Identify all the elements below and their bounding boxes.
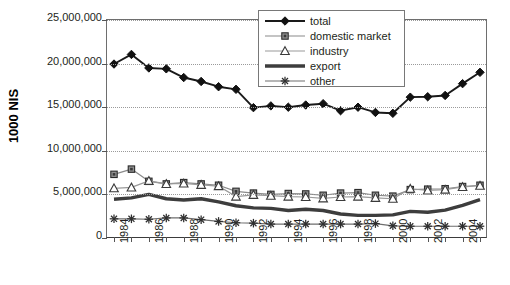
gridline (107, 107, 486, 108)
x-axis-tick-label: 1994 (292, 203, 304, 243)
legend-swatch-asterisk-icon (263, 75, 307, 87)
y-axis-tick-label: 15,000,000 (28, 98, 102, 110)
x-axis-tick-label: 1984 (118, 203, 130, 243)
data-point-asterisk (354, 220, 363, 229)
data-point-asterisk (110, 215, 119, 224)
x-axis-tick-label: 1990 (223, 203, 235, 243)
legend-swatch-none-icon (263, 60, 307, 72)
x-axis-tick-mark (445, 237, 446, 242)
x-axis-tick-mark (184, 237, 185, 242)
y-axis-tick-label: 0 (28, 229, 102, 241)
gridline (107, 151, 486, 152)
data-point-asterisk (214, 217, 223, 226)
data-point-asterisk (179, 214, 188, 223)
data-point-diamond (281, 17, 289, 25)
x-axis-tick-mark (149, 237, 150, 242)
data-point-square (111, 171, 117, 177)
x-axis-tick-mark (219, 237, 220, 242)
x-axis-tick-label: 2002 (432, 203, 444, 243)
x-axis-tick-mark (428, 237, 429, 242)
legend-label: industry (310, 45, 349, 57)
x-axis-tick-label: 2004 (467, 203, 479, 243)
x-axis-tick-mark (410, 237, 411, 242)
legend-item-industry[interactable]: industry (263, 44, 400, 58)
x-axis-tick-mark (463, 237, 464, 242)
data-point-diamond (214, 83, 222, 91)
y-axis-tick-label: 10,000,000 (28, 142, 102, 154)
data-point-diamond (162, 65, 170, 73)
x-axis-tick-mark (114, 237, 115, 242)
x-axis-tick-label: 1996 (327, 203, 339, 243)
data-point-asterisk (145, 215, 154, 224)
x-axis-tick-mark (288, 237, 289, 242)
x-axis-tick-mark (375, 237, 376, 242)
data-point-diamond (267, 102, 275, 110)
legend-item-domestic-market[interactable]: domestic market (263, 29, 400, 43)
legend-label: other (310, 75, 335, 87)
data-point-square (128, 166, 134, 172)
legend-label: domestic market (310, 30, 391, 42)
y-axis-tick-mark (102, 194, 107, 195)
legend-swatch-triangle-icon (263, 45, 307, 57)
data-point-diamond (424, 93, 432, 101)
legend-swatch-square-icon (263, 30, 307, 42)
x-axis-tick-label: 1992 (257, 203, 269, 243)
x-axis-tick-label: 1986 (153, 203, 165, 243)
y-axis-tick-label: 20,000,000 (28, 55, 102, 67)
y-axis-tick-mark (102, 238, 107, 239)
data-point-asterisk (423, 222, 432, 231)
legend-label: export (310, 60, 341, 72)
x-axis-tick-mark (131, 237, 132, 242)
x-axis-tick-mark (253, 237, 254, 242)
data-point-diamond (180, 73, 188, 81)
y-axis-tick-mark (102, 64, 107, 65)
x-axis-tick-mark (201, 237, 202, 242)
x-axis-tick-label: 1998 (362, 203, 374, 243)
data-point-asterisk (389, 221, 398, 230)
x-axis-tick-mark (323, 237, 324, 242)
x-axis-tick-mark (341, 237, 342, 242)
x-axis-tick-mark (236, 237, 237, 242)
y-axis-tick-label: 25,000,000 (28, 11, 102, 23)
data-point-diamond (197, 77, 205, 85)
chart-container: 1000 NIS 05,000,00010,000,00015,000,0002… (0, 0, 510, 285)
x-axis-tick-labels: 1984198619881990199219941996199820002002… (106, 243, 487, 285)
data-point-diamond (371, 108, 379, 116)
x-axis-tick-mark (306, 237, 307, 242)
chart-legend: totaldomestic marketindustryexportother (258, 10, 405, 87)
y-axis-tick-label: 5,000,000 (28, 185, 102, 197)
x-axis-tick-mark (393, 237, 394, 242)
gridline (107, 194, 486, 195)
x-axis-tick-label: 1988 (188, 203, 200, 243)
x-axis-tick-mark (166, 237, 167, 242)
x-axis-tick-label: 2000 (397, 203, 409, 243)
x-axis-tick-mark (358, 237, 359, 242)
y-axis-tick-mark (102, 107, 107, 108)
legend-swatch-diamond-icon (263, 15, 307, 27)
legend-item-other[interactable]: other (263, 74, 400, 88)
x-axis-tick-mark (480, 237, 481, 242)
data-point-asterisk (458, 222, 467, 231)
y-axis-tick-labels: 05,000,00010,000,00015,000,00020,000,000… (24, 0, 102, 285)
data-point-asterisk (281, 77, 290, 86)
legend-label: total (310, 15, 331, 27)
y-axis-tick-mark (102, 20, 107, 21)
legend-item-export[interactable]: export (263, 59, 400, 73)
y-axis-tick-mark (102, 151, 107, 152)
data-point-square (282, 33, 288, 39)
legend-item-total[interactable]: total (263, 14, 400, 28)
x-axis-tick-mark (271, 237, 272, 242)
y-axis-title: 1000 NIS (6, 76, 26, 156)
